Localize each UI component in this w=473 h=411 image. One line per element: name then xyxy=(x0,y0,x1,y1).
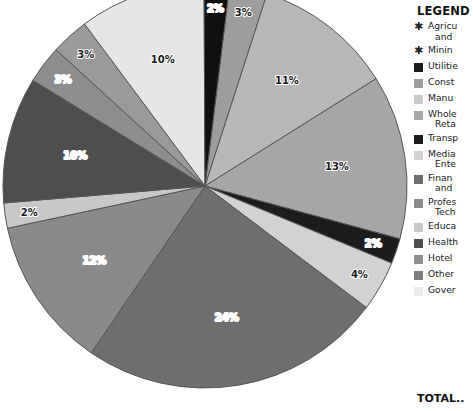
pie-chart: 3%11%13%2%4%24%12%2%10%3%3%10%2% xyxy=(0,0,410,411)
legend-color-swatch xyxy=(414,111,423,120)
legend-item-label: Health xyxy=(428,237,458,248)
legend-total-label: TOTAL.. xyxy=(417,392,464,405)
legend-color-swatch xyxy=(414,287,423,296)
legend-item[interactable]: Other xyxy=(414,269,473,280)
legend-item-label: Finanand xyxy=(428,173,452,194)
legend-item-label: Manu xyxy=(428,93,453,104)
legend-item[interactable]: Gover xyxy=(414,285,473,296)
legend-item-label: WholeReta xyxy=(428,109,457,130)
pie-chart-screenshot: 3%11%13%2%4%24%12%2%10%3%3%10%2% LEGEND … xyxy=(0,0,473,411)
pie-slice-value-label: 24% xyxy=(215,312,239,323)
legend-item-label: MediaEnte xyxy=(428,149,456,170)
legend-item[interactable]: Manu xyxy=(414,93,473,104)
legend-item-label-line2: and xyxy=(435,32,457,43)
legend-item-label: Minin xyxy=(428,45,453,56)
legend-item[interactable]: ✱Minin xyxy=(414,45,473,56)
legend-item[interactable]: ProfesTech xyxy=(414,197,473,218)
pie-slice-value-label: 10% xyxy=(151,54,175,65)
legend-item-label: Gover xyxy=(428,285,456,296)
pie-slice-value-label: 3% xyxy=(55,74,72,85)
legend-color-swatch xyxy=(414,95,423,104)
pie-slice-value-label: 3% xyxy=(235,7,252,18)
legend-title: LEGEND xyxy=(417,4,473,18)
legend-star-icon: ✱ xyxy=(414,46,423,55)
legend-color-swatch xyxy=(414,223,423,232)
legend-item[interactable]: Finanand xyxy=(414,173,473,194)
legend-item[interactable]: Hotel xyxy=(414,253,473,264)
legend-item[interactable]: WholeReta xyxy=(414,109,473,130)
legend-item-label-line2: Reta xyxy=(435,119,457,130)
legend-item[interactable]: Transp xyxy=(414,133,473,144)
pie-slices xyxy=(3,0,407,388)
pie-slice-value-label: 13% xyxy=(325,161,349,172)
pie-slice-value-label: 10% xyxy=(63,150,87,161)
pie-slice-value-label: 4% xyxy=(351,269,368,280)
legend-color-swatch xyxy=(414,271,423,280)
legend-color-swatch xyxy=(414,151,423,160)
legend-item-list: ✱Agricuand✱MininUtilitieConstManuWholeRe… xyxy=(408,21,473,296)
legend-item[interactable]: Health xyxy=(414,237,473,248)
legend-color-swatch xyxy=(414,175,423,184)
legend-color-swatch xyxy=(414,239,423,248)
legend-panel: LEGEND ✱Agricuand✱MininUtilitieConstManu… xyxy=(408,0,473,411)
legend-item[interactable]: Educa xyxy=(414,221,473,232)
legend-item-label-line2: and xyxy=(435,183,452,194)
legend-item[interactable]: MediaEnte xyxy=(414,149,473,170)
legend-item-label: Hotel xyxy=(428,253,452,264)
legend-item-label: Utilitie xyxy=(428,61,458,72)
pie-slice-value-label: 2% xyxy=(21,207,38,218)
legend-color-swatch xyxy=(414,255,423,264)
legend-item-label: Other xyxy=(428,269,454,280)
legend-item[interactable]: Const xyxy=(414,77,473,88)
pie-slice-value-label: 3% xyxy=(77,49,94,60)
pie-slice-value-label: 11% xyxy=(275,75,299,86)
legend-item-label: ProfesTech xyxy=(428,197,456,218)
legend-color-swatch xyxy=(414,135,423,144)
legend-item-label: Educa xyxy=(428,221,456,232)
legend-item-label: Const xyxy=(428,77,454,88)
legend-item[interactable]: Utilitie xyxy=(414,61,473,72)
legend-color-swatch xyxy=(414,63,423,72)
pie-slice-value-label: 2% xyxy=(365,238,382,249)
pie-chart-svg: 3%11%13%2%4%24%12%2%10%3%3%10%2% xyxy=(0,0,410,411)
pie-slice-value-label: 2% xyxy=(207,3,224,14)
legend-item-label: Transp xyxy=(428,133,458,144)
legend-item-label: Agricuand xyxy=(428,21,457,42)
legend-item-label-line2: Ente xyxy=(435,159,456,170)
legend-item[interactable]: ✱Agricuand xyxy=(414,21,473,42)
legend-item-label-line2: Tech xyxy=(435,207,456,218)
legend-star-icon: ✱ xyxy=(414,22,423,31)
pie-slice-value-label: 12% xyxy=(82,255,106,266)
legend-color-swatch xyxy=(414,79,423,88)
legend-color-swatch xyxy=(414,199,423,208)
